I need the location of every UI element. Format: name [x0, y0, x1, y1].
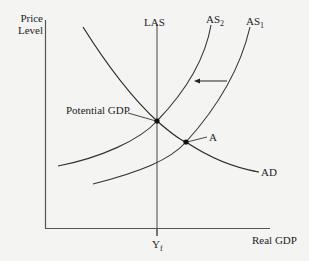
y-axis-label-line1: Price: [18, 12, 43, 24]
point-a-label: A: [209, 131, 217, 143]
x-axis-label: Real GDP: [252, 234, 297, 246]
yf-label: Yf: [152, 238, 163, 250]
shift-arrow-head-icon: [194, 79, 200, 84]
potential-gdp-label: Potential GDP: [66, 104, 130, 116]
as2-label: AS2: [206, 13, 224, 25]
as1-label: AS1: [246, 15, 264, 27]
y-axis-label-line2: Level: [18, 24, 43, 36]
point-a: [183, 139, 188, 144]
las-label: LAS: [144, 16, 165, 28]
potential-gdp-point: [154, 118, 159, 123]
y-axis-label: Price Level: [18, 12, 43, 36]
ad-curve: [83, 27, 259, 172]
ad-label: AD: [261, 166, 277, 178]
potential-gdp-leader: [128, 113, 156, 121]
as2-curve: [58, 25, 211, 166]
ad-as-diagram: [0, 0, 309, 261]
